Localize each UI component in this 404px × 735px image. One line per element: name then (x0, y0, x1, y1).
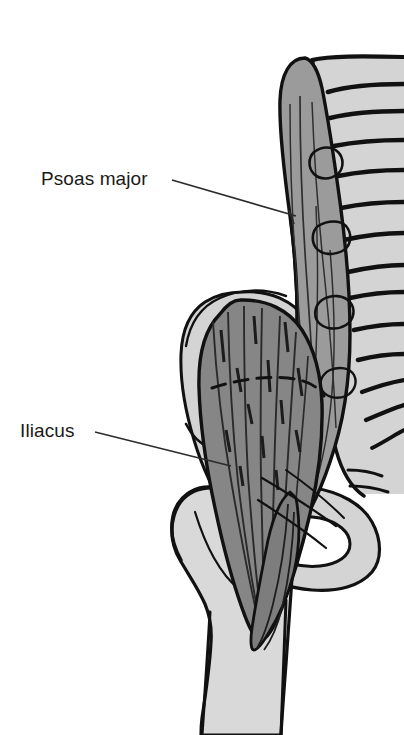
label-psoas-major: Psoas major (41, 169, 148, 188)
iliacus-accent-5 (268, 360, 270, 392)
anatomy-illustration (0, 0, 404, 735)
iliacus-accent-10 (262, 436, 264, 458)
leader-line-psoas-major (172, 180, 296, 216)
iliacus-accent-2 (254, 316, 256, 344)
label-iliacus: Iliacus (20, 421, 75, 440)
anatomical-figure: Psoas major Iliacus (0, 0, 404, 735)
iliacus-accent-8 (281, 400, 283, 424)
